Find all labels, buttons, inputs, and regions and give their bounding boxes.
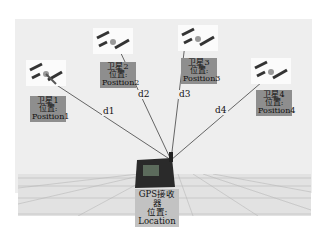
distance-d3: d3 — [178, 90, 192, 99]
satellite-2-label: 卫星2 位置: Position2 — [100, 62, 136, 88]
gps-receiver-label: GPS接收器 位置: Location — [135, 189, 179, 227]
satellite-4-icon — [251, 58, 291, 84]
satellite-3-label: 卫星3 位置: Position3 — [181, 58, 217, 84]
satellite-2-icon — [93, 28, 133, 54]
distance-d4: d4 — [214, 106, 228, 115]
satellite-1-icon — [26, 60, 66, 86]
satellite-4-label: 卫星4 位置: Position4 — [256, 90, 292, 116]
gps-receiver-icon — [135, 152, 175, 188]
satellite-1-label: 卫星1 位置: Position1 — [30, 96, 66, 122]
distance-d1: d1 — [102, 107, 116, 116]
satellite-3-icon — [178, 25, 218, 51]
distance-d2: d2 — [137, 90, 151, 99]
